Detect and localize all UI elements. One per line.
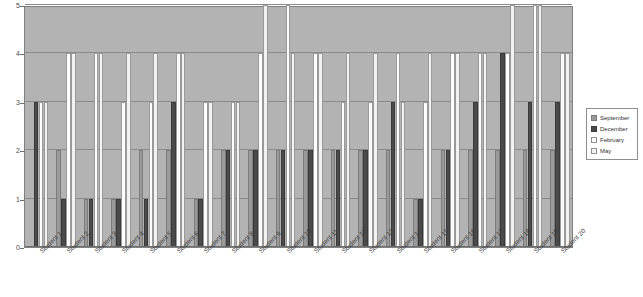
plot-area — [24, 6, 573, 248]
bar-february — [341, 102, 346, 247]
bar-group — [300, 7, 327, 247]
bar-february — [286, 5, 291, 247]
bar-may — [71, 53, 76, 247]
bar-december — [198, 199, 203, 247]
bar-group — [52, 7, 79, 247]
bar-may — [565, 53, 570, 247]
bar-group — [217, 7, 244, 247]
bar-group — [107, 7, 134, 247]
y-tick-mark-0 — [20, 248, 24, 249]
bar-may — [428, 53, 433, 247]
bar-december — [89, 199, 94, 247]
y-tick-label-5: 5 — [2, 2, 20, 9]
bar-may — [208, 102, 213, 247]
legend-swatch-icon — [591, 115, 597, 121]
bar-february — [533, 5, 538, 247]
bar-may — [181, 53, 186, 247]
bar-december — [34, 102, 39, 247]
bar-december — [281, 150, 286, 247]
legend-swatch-icon — [591, 137, 597, 143]
bar-february — [396, 53, 401, 247]
bar-may — [401, 102, 406, 247]
bar-may — [126, 53, 131, 247]
bar-february — [258, 53, 263, 247]
y-tick-label-3: 3 — [2, 99, 20, 106]
y-tick-label-1: 1 — [2, 196, 20, 203]
gridline-5 — [25, 4, 572, 5]
bar-december — [226, 150, 231, 247]
legend-label: September — [600, 115, 629, 121]
legend-item[interactable]: December — [591, 123, 634, 134]
y-tick-label-4: 4 — [2, 50, 20, 57]
bar-february — [478, 53, 483, 247]
bar-february — [203, 102, 208, 247]
bar-december — [61, 199, 66, 247]
bar-may — [510, 5, 515, 247]
bar-may — [318, 53, 323, 247]
bar-february — [149, 102, 154, 247]
chart-legend: SeptemberDecemberFebruaryMay — [586, 108, 638, 160]
bar-december — [171, 102, 176, 247]
bar-february — [313, 53, 318, 247]
bar-group — [80, 7, 107, 247]
bar-february — [450, 53, 455, 247]
bar-february — [176, 53, 181, 247]
bar-february — [505, 53, 510, 247]
bar-december — [116, 199, 121, 247]
bar-may — [236, 102, 241, 247]
legend-item[interactable]: September — [591, 112, 634, 123]
bar-december — [500, 53, 505, 247]
bar-december — [144, 199, 149, 247]
bar-february — [368, 102, 373, 247]
bar-group — [547, 7, 574, 247]
bar-december — [391, 102, 396, 247]
bar-may — [153, 53, 158, 247]
x-axis-labels: Student 1Student 2Student 3Student 4Stud… — [24, 250, 573, 297]
bar-february — [231, 102, 236, 247]
bar-group — [25, 7, 52, 247]
legend-item[interactable]: February — [591, 134, 634, 145]
bar-may — [455, 53, 460, 247]
bar-group — [492, 7, 519, 247]
legend-swatch-icon — [591, 126, 597, 132]
legend-label: December — [600, 126, 628, 132]
bar-may — [263, 5, 268, 247]
bar-may — [291, 53, 296, 247]
bar-february — [423, 102, 428, 247]
bar-group — [437, 7, 464, 247]
bar-group — [464, 7, 491, 247]
bar-december — [473, 102, 478, 247]
legend-label: May — [600, 148, 611, 154]
bar-february — [94, 53, 99, 247]
y-tick-label-0: 0 — [2, 244, 20, 251]
bar-february — [560, 53, 565, 247]
bar-february — [66, 53, 71, 247]
y-tick-label-2: 2 — [2, 147, 20, 154]
bar-group — [245, 7, 272, 247]
bar-group — [272, 7, 299, 247]
bar-group — [190, 7, 217, 247]
legend-item[interactable]: May — [591, 145, 634, 156]
bar-may — [99, 53, 104, 247]
bar-may — [346, 53, 351, 247]
bar-february — [121, 102, 126, 247]
bar-group — [519, 7, 546, 247]
legend-label: February — [600, 137, 624, 143]
bar-group — [327, 7, 354, 247]
bar-may — [373, 53, 378, 247]
bar-december — [528, 102, 533, 247]
chart-screenshot: 012345 Student 1Student 2Student 3Studen… — [0, 0, 643, 297]
bars-layer — [25, 7, 572, 247]
bar-december — [555, 102, 560, 247]
bar-december — [418, 199, 423, 247]
bar-group — [409, 7, 436, 247]
legend-swatch-icon — [591, 148, 597, 154]
bar-may — [483, 53, 488, 247]
bar-group — [382, 7, 409, 247]
bar-february — [39, 102, 44, 247]
bar-may — [44, 102, 49, 247]
bar-group — [135, 7, 162, 247]
bar-group — [162, 7, 189, 247]
bar-group — [354, 7, 381, 247]
bar-may — [538, 5, 543, 247]
